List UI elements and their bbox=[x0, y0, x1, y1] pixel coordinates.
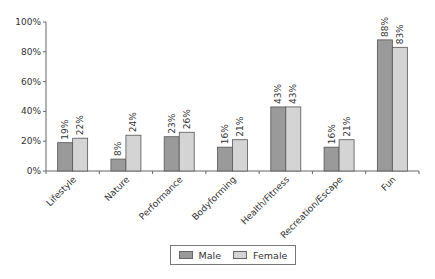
legend: Male Female bbox=[170, 245, 296, 265]
bar-value-label: 43% bbox=[273, 83, 283, 103]
bar-value-label: 16% bbox=[220, 124, 230, 144]
bar-value-label: 24% bbox=[128, 112, 138, 132]
legend-item-male: Male bbox=[179, 250, 222, 261]
x-category-label: Lifestyle bbox=[44, 174, 78, 208]
bar-value-label: 22% bbox=[75, 115, 85, 135]
y-tick-label: 60% bbox=[21, 77, 41, 87]
bar-value-label: 83% bbox=[395, 24, 405, 44]
bar-value-label: 23% bbox=[167, 113, 177, 133]
bar-value-label: 21% bbox=[235, 116, 245, 136]
bar-value-label: 19% bbox=[60, 119, 70, 139]
legend-label-female: Female bbox=[253, 250, 287, 261]
bar-value-label: 88% bbox=[380, 16, 390, 36]
bar-female bbox=[286, 107, 301, 171]
x-category-label: Nature bbox=[103, 174, 132, 203]
y-tick-label: 100% bbox=[15, 17, 41, 27]
y-tick-label: 80% bbox=[21, 47, 41, 57]
female-swatch bbox=[233, 251, 247, 259]
bar-male bbox=[271, 107, 286, 171]
bar-chart: 0%20%40%60%80%100%19%22%Lifestyle8%24%Na… bbox=[0, 0, 435, 279]
bar-male bbox=[111, 159, 126, 171]
legend-item-female: Female bbox=[233, 250, 287, 261]
bar-female bbox=[179, 132, 194, 171]
bar-value-label: 21% bbox=[342, 116, 352, 136]
bar-female bbox=[126, 135, 141, 171]
bar-value-label: 16% bbox=[327, 124, 337, 144]
bar-value-label: 26% bbox=[182, 109, 192, 129]
bar-male bbox=[218, 147, 233, 171]
x-category-label: Bodyforming bbox=[190, 174, 238, 222]
legend-label-male: Male bbox=[199, 250, 222, 261]
x-category-label: Health/Fitness bbox=[239, 174, 291, 226]
x-category-label: Performance bbox=[137, 174, 185, 222]
y-tick-label: 40% bbox=[21, 106, 41, 116]
bar-female bbox=[73, 138, 88, 171]
bar-female bbox=[339, 140, 354, 171]
bar-female bbox=[233, 140, 248, 171]
bar-male bbox=[164, 137, 179, 171]
bar-female bbox=[392, 47, 407, 171]
y-tick-label: 20% bbox=[21, 136, 41, 146]
male-swatch bbox=[179, 251, 193, 259]
bar-male bbox=[377, 40, 392, 171]
x-category-label: Fun bbox=[379, 174, 397, 192]
y-tick-label: 0% bbox=[27, 166, 42, 176]
bar-male bbox=[324, 147, 339, 171]
bar-value-label: 43% bbox=[288, 83, 298, 103]
bar-male bbox=[58, 143, 73, 171]
bar-value-label: 8% bbox=[113, 141, 123, 156]
